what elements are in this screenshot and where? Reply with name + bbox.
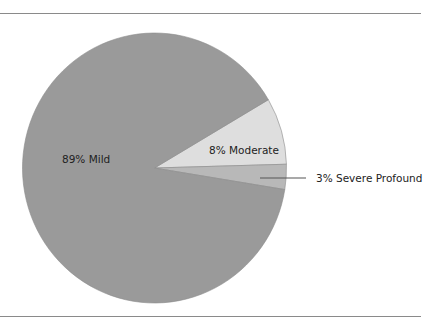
label-moderate: 8% Moderate (209, 144, 279, 156)
label-mild: 89% Mild (62, 153, 110, 165)
label-severe: 3% Severe Profound (316, 172, 422, 184)
pie-chart: 89% Mild 8% Moderate 3% Severe Profound (0, 0, 436, 320)
bottom-rule (0, 316, 421, 317)
pie-slices (23, 33, 287, 303)
